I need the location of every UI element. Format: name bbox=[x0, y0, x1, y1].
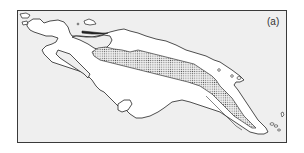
map-canvas bbox=[0, 0, 304, 153]
island-east-2 bbox=[231, 75, 234, 78]
island-west-1 bbox=[20, 13, 30, 18]
panel-label: (a) bbox=[267, 16, 279, 27]
island-east-1 bbox=[218, 69, 221, 72]
island-east-3 bbox=[237, 77, 241, 80]
island-north-small bbox=[77, 23, 79, 25]
island-se-1 bbox=[270, 123, 274, 126]
island-se-3 bbox=[278, 129, 281, 131]
island-se-2 bbox=[274, 125, 278, 127]
island-west-2 bbox=[22, 21, 28, 25]
island-east-4 bbox=[281, 112, 284, 117]
island-north-biak bbox=[84, 19, 96, 25]
island-north-yapen bbox=[82, 31, 108, 34]
